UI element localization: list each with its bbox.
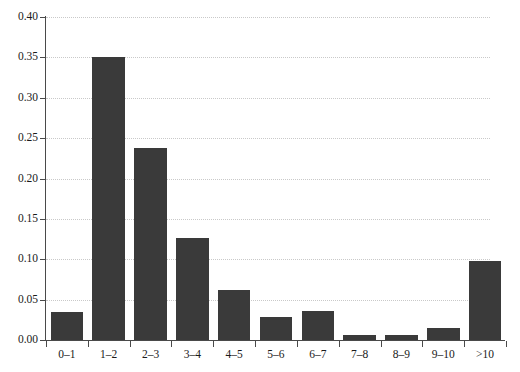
- bar-chart-figure: 0.000.050.100.150.200.250.300.350.40 0–1…: [0, 0, 520, 372]
- x-axis-tick: [339, 341, 340, 347]
- x-axis-tick-label: 0–1: [46, 349, 88, 361]
- y-axis-tick-label: 0.30: [4, 92, 38, 104]
- y-axis-tick-label: 0.20: [4, 173, 38, 185]
- bar: [469, 261, 502, 340]
- bar: [427, 328, 460, 340]
- y-axis-tick-label: 0.05: [4, 294, 38, 306]
- x-axis-spine: [45, 340, 505, 341]
- x-axis-tick-label: 3–4: [171, 349, 213, 361]
- bar: [134, 148, 167, 340]
- x-axis-tick-label: 4–5: [213, 349, 255, 361]
- y-axis-tick-label: 0.10: [4, 253, 38, 265]
- x-axis-tick: [255, 341, 256, 347]
- x-axis-tick: [506, 341, 507, 347]
- bar: [385, 335, 418, 340]
- bar: [218, 290, 251, 340]
- bar-series: [46, 17, 505, 340]
- y-axis-tick-label: 0.35: [4, 51, 38, 63]
- x-axis-tick-label: 8–9: [381, 349, 423, 361]
- x-axis-tick-label: 6–7: [297, 349, 339, 361]
- bar: [343, 335, 376, 340]
- x-axis-tick: [464, 341, 465, 347]
- x-axis-tick: [381, 341, 382, 347]
- x-axis-tick-label: 5–6: [255, 349, 297, 361]
- bar: [51, 312, 84, 340]
- bar: [302, 311, 335, 340]
- y-axis-tick-label: 0.15: [4, 213, 38, 225]
- x-axis-tick: [422, 341, 423, 347]
- x-axis-tick-label: 1–2: [88, 349, 130, 361]
- y-axis-tick-label: 0.40: [4, 11, 38, 23]
- y-axis-tick-label: 0.00: [4, 334, 38, 346]
- x-axis-tick: [88, 341, 89, 347]
- x-axis-tick-label: >10: [464, 349, 506, 361]
- bar: [260, 317, 293, 340]
- x-axis-tick: [213, 341, 214, 347]
- x-axis-tick: [297, 341, 298, 347]
- bar: [92, 57, 125, 340]
- x-axis-tick: [130, 341, 131, 347]
- x-axis-tick-label: 7–8: [339, 349, 381, 361]
- x-axis-tick: [171, 341, 172, 347]
- y-axis-tick-label: 0.25: [4, 132, 38, 144]
- x-axis-tick-label: 9–10: [422, 349, 464, 361]
- x-axis-tick-label: 2–3: [130, 349, 172, 361]
- x-axis-tick: [46, 341, 47, 347]
- bar: [176, 238, 209, 340]
